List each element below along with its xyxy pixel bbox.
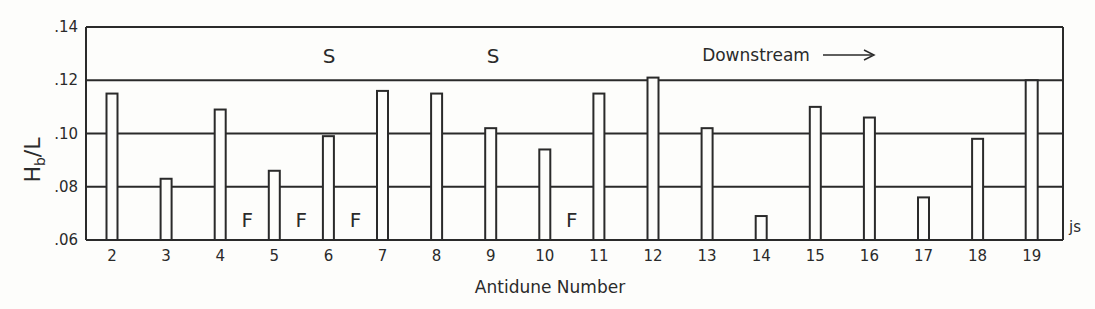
bar-chart: .06.08.10.12.14 234567891011121314151617… [0,0,1095,309]
x-tick-label: 14 [752,247,771,265]
f-marker: F [566,208,578,232]
downstream-label: Downstream [702,45,810,65]
x-tick-label: 12 [643,247,662,265]
bar-antidune-17 [918,197,929,240]
x-tick-label: 13 [698,247,717,265]
bar-antidune-9 [485,128,496,240]
js-mark: js [1068,218,1081,236]
y-axis-label: Hb/L [20,137,48,183]
x-axis-ticks: 2345678910111213141516171819 [107,247,1041,265]
s-marker: S [487,44,500,68]
bar-antidune-12 [648,78,659,240]
y-tick-label: .06 [54,231,78,249]
x-tick-label: 7 [378,247,388,265]
x-tick-label: 9 [486,247,496,265]
bar-antidune-4 [215,110,226,240]
y-axis-ticks: .06.08.10.12.14 [54,18,78,249]
y-tick-label: .10 [54,125,78,143]
bar-antidune-15 [810,107,821,240]
bar-antidune-5 [269,171,280,240]
x-tick-label: 18 [968,247,987,265]
s-marker: S [323,44,336,68]
x-tick-label: 8 [432,247,442,265]
bar-antidune-14 [756,216,767,240]
bar-antidune-3 [161,179,172,240]
bar-antidune-16 [864,118,875,240]
x-tick-label: 6 [324,247,334,265]
y-tick-label: .12 [54,71,78,89]
y-tick-label: .14 [54,18,78,36]
bar-antidune-19 [1026,80,1038,240]
x-tick-label: 11 [589,247,608,265]
x-tick-label: 3 [161,247,171,265]
bar-antidune-18 [972,139,983,240]
x-tick-label: 2 [107,247,117,265]
bar-antidune-8 [431,94,442,240]
f-marker: F [350,208,362,232]
f-marker: F [241,208,253,232]
bar-antidune-2 [107,94,118,240]
x-tick-label: 19 [1022,247,1041,265]
bar-antidune-7 [377,91,388,240]
bar-antidune-13 [702,128,713,240]
x-tick-label: 4 [215,247,225,265]
x-tick-label: 16 [860,247,879,265]
annotations: SSFFFFDownstreamjs [241,44,1081,236]
x-tick-label: 15 [806,247,825,265]
bar-antidune-11 [593,94,604,240]
x-axis-label: Antidune Number [475,277,625,297]
bar-antidune-10 [539,149,550,240]
x-tick-label: 10 [535,247,554,265]
y-tick-label: .08 [54,178,78,196]
f-marker: F [296,208,308,232]
bar-antidune-6 [323,136,334,240]
x-tick-label: 17 [914,247,933,265]
x-tick-label: 5 [270,247,280,265]
